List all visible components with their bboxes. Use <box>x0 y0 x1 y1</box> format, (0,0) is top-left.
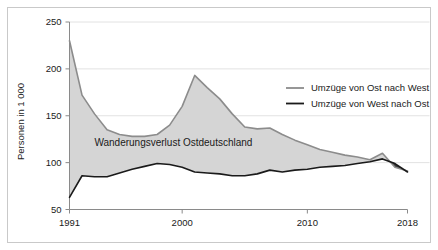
x-axis-tick-label: 2010 <box>297 217 318 228</box>
y-axis-tick-label: 50 <box>51 204 62 215</box>
y-axis-tick-label: 200 <box>46 63 62 74</box>
x-axis-tick-labels: 1991200020102018 <box>59 217 418 228</box>
chart-figure: 25020015010050 1991200020102018 Personen… <box>0 0 438 250</box>
x-axis-tick-label: 1991 <box>59 217 80 228</box>
y-axis-tick-label: 250 <box>46 16 62 27</box>
x-axis-ticks <box>70 210 408 214</box>
y-axis-tick-label: 100 <box>46 157 62 168</box>
y-axis-tick-label: 150 <box>46 110 62 121</box>
y-axis-title: Personen in 1 000 <box>15 83 26 160</box>
area-annotation-label: Wanderungsverlust Ostdeutschland <box>94 137 252 148</box>
y-axis-tick-labels: 25020015010050 <box>46 16 62 215</box>
legend-label: Umzüge von West nach Ost <box>311 98 429 109</box>
chart-legend: Umzüge von Ost nach WestUmzüge von West … <box>286 82 429 109</box>
x-axis-tick-label: 2000 <box>172 217 193 228</box>
chart-plot: 25020015010050 1991200020102018 Personen… <box>0 0 438 250</box>
y-axis-ticks <box>66 22 70 210</box>
wanderungsverlust-area <box>70 41 408 198</box>
area-fill-group <box>70 41 408 198</box>
x-axis-tick-label: 2018 <box>397 217 418 228</box>
legend-label: Umzüge von Ost nach West <box>311 82 429 93</box>
